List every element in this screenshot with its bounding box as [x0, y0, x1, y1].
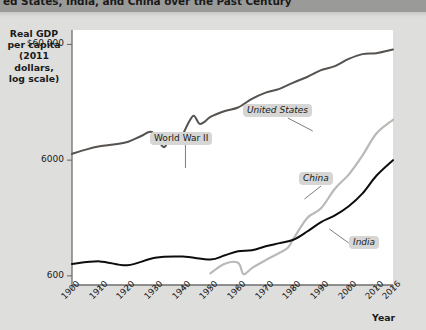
series-label-india: India: [349, 236, 379, 249]
chart-figure: ed States, India, and China over the Pas…: [0, 0, 426, 330]
x-axis-title: Year: [372, 312, 395, 323]
series-label-china: China: [299, 172, 333, 185]
y-tick-label: 6000: [6, 154, 64, 164]
series-label-united-states: United States: [243, 104, 312, 117]
y-tick-label: $60,000: [6, 38, 64, 48]
annotation-world-war-ii: World War II: [150, 132, 212, 145]
y-tick-label: 600: [6, 270, 64, 280]
